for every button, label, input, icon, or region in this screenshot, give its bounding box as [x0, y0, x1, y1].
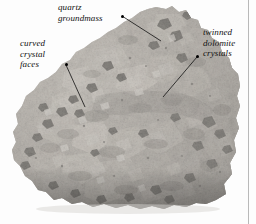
- leader-dot-curved: [65, 63, 68, 66]
- page-gutter-rule: [248, 0, 249, 224]
- annotation-label-curved-crystal-faces: curved crystal faces: [20, 38, 45, 70]
- leader-dot-quartz: [121, 15, 124, 18]
- mineral-specimen-figure: quartz groundmass curved crystal faces t…: [0, 0, 256, 224]
- specimen-shadow: [36, 204, 220, 214]
- annotation-label-quartz-groundmass: quartz groundmass: [58, 2, 103, 23]
- leader-dot-dolomite: [196, 55, 199, 58]
- annotation-label-twinned-dolomite-crystals: twinned dolomite crystals: [203, 27, 235, 59]
